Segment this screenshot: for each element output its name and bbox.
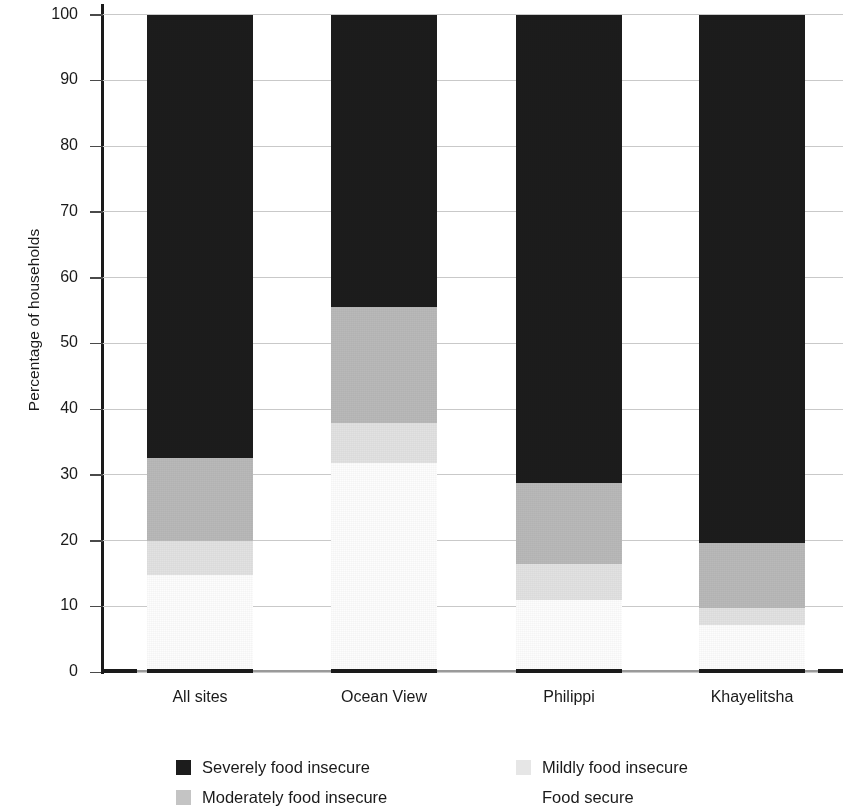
segment-food-secure	[699, 625, 805, 672]
bar-khayelitsha	[699, 15, 805, 672]
y-tick-20	[90, 540, 103, 542]
x-axis-label-philippi: Philippi	[469, 688, 669, 706]
y-tick-70	[90, 211, 103, 213]
segment-food-secure	[516, 600, 622, 672]
segment-mildly-food-insecure	[147, 541, 253, 575]
y-tick-label-50: 50	[16, 334, 78, 350]
y-tick-100	[90, 14, 103, 16]
x-axis-tick-khayelitsha	[699, 669, 805, 673]
bar-ocean-view	[331, 15, 437, 672]
y-tick-label-0: 0	[16, 663, 78, 679]
x-axis-label-ocean-view: Ocean View	[284, 688, 484, 706]
segment-mildly-food-insecure	[699, 608, 805, 624]
legend-item-moderate: Moderately food insecure	[176, 782, 476, 811]
y-tick-60	[90, 277, 103, 279]
segment-severely-food-insecure	[147, 15, 253, 459]
y-tick-label-10: 10	[16, 597, 78, 613]
segment-moderately-food-insecure	[516, 483, 622, 564]
segment-mildly-food-insecure	[516, 564, 622, 600]
x-axis-tick-philippi	[516, 669, 622, 673]
x-axis-tick-ocean-view	[331, 669, 437, 673]
x-axis-right-stub	[818, 669, 843, 673]
y-tick-label-30: 30	[16, 466, 78, 482]
legend-item-mild: Mildly food insecure	[516, 752, 816, 782]
y-tick-label-80: 80	[16, 137, 78, 153]
legend-swatch-secure-icon	[516, 790, 531, 805]
bar-philippi	[516, 15, 622, 672]
segment-food-secure	[147, 575, 253, 672]
legend-swatch-severe-icon	[176, 760, 191, 775]
segment-severely-food-insecure	[331, 15, 437, 307]
segment-severely-food-insecure	[516, 15, 622, 483]
y-tick-label-40: 40	[16, 400, 78, 416]
legend-label: Food secure	[542, 788, 634, 807]
y-tick-10	[90, 606, 103, 608]
x-axis-label-khayelitsha: Khayelitsha	[652, 688, 843, 706]
legend-label: Moderately food insecure	[202, 788, 387, 807]
stacked-bar-chart: Percentage of households 010203040506070…	[0, 0, 843, 811]
chart-legend: Severely food insecureMildly food insecu…	[176, 752, 816, 811]
segment-moderately-food-insecure	[331, 307, 437, 423]
y-tick-90	[90, 80, 103, 82]
segment-moderately-food-insecure	[147, 458, 253, 540]
legend-item-secure: Food secure	[516, 782, 816, 811]
segment-food-secure	[331, 463, 437, 672]
segment-moderately-food-insecure	[699, 543, 805, 608]
legend-label: Severely food insecure	[202, 758, 370, 777]
y-tick-label-90: 90	[16, 71, 78, 87]
y-tick-label-100: 100	[16, 6, 78, 22]
legend-label: Mildly food insecure	[542, 758, 688, 777]
bar-all-sites	[147, 15, 253, 672]
x-axis-origin-stub	[101, 669, 137, 673]
y-tick-40	[90, 409, 103, 411]
y-tick-label-70: 70	[16, 203, 78, 219]
segment-mildly-food-insecure	[331, 423, 437, 463]
x-axis-label-all-sites: All sites	[100, 688, 300, 706]
y-tick-label-60: 60	[16, 269, 78, 285]
segment-severely-food-insecure	[699, 15, 805, 543]
legend-swatch-mild-icon	[516, 760, 531, 775]
legend-item-severe: Severely food insecure	[176, 752, 476, 782]
y-tick-50	[90, 343, 103, 345]
x-axis-tick-all-sites	[147, 669, 253, 673]
y-tick-80	[90, 146, 103, 148]
y-tick-30	[90, 474, 103, 476]
y-tick-label-20: 20	[16, 532, 78, 548]
legend-swatch-moderate-icon	[176, 790, 191, 805]
